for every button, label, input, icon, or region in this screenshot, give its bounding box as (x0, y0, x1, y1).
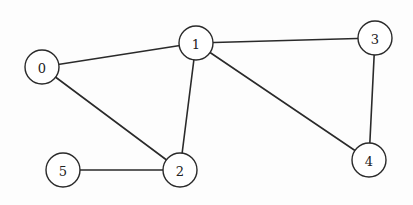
edge-3-4 (369, 38, 375, 160)
node-2: 2 (163, 153, 197, 187)
node-3: 3 (358, 21, 392, 55)
node-label: 1 (192, 37, 200, 52)
nodes-layer: 012345 (25, 21, 392, 187)
node-4: 4 (352, 143, 386, 177)
edges-layer (42, 38, 375, 170)
node-label: 4 (365, 154, 373, 169)
node-label: 3 (371, 32, 379, 47)
graph-diagram: 012345 (0, 0, 413, 205)
node-5: 5 (46, 153, 80, 187)
node-label: 5 (59, 164, 67, 179)
edge-1-3 (196, 38, 375, 43)
edge-1-4 (196, 43, 369, 160)
edge-1-2 (180, 43, 196, 170)
node-label: 0 (38, 61, 46, 76)
node-1: 1 (179, 26, 213, 60)
node-label: 2 (176, 164, 184, 179)
node-0: 0 (25, 50, 59, 84)
edge-0-1 (42, 43, 196, 67)
